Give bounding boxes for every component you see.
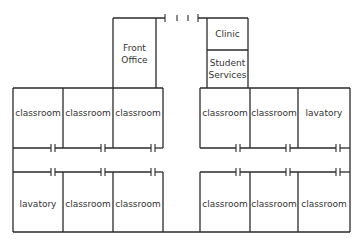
student-services-room: Student Services <box>207 57 248 81</box>
lower-room-3: classroom <box>113 198 163 210</box>
lower-room-2: classroom <box>63 198 113 210</box>
lower-room-6: classroom <box>298 198 350 210</box>
upper-room-4: classroom <box>200 107 250 119</box>
student-services-label-1: Student <box>207 57 248 69</box>
student-services-label-2: Services <box>207 69 248 81</box>
front-office-label-1: Front <box>113 42 156 54</box>
upper-room-1: classroom <box>13 107 63 119</box>
upper-room-2: classroom <box>63 107 113 119</box>
upper-room-3: classroom <box>113 107 163 119</box>
lower-room-1: lavatory <box>13 198 63 210</box>
clinic-label: Clinic <box>207 28 248 40</box>
lower-room-5: classroom <box>250 198 298 210</box>
front-office-label-2: Office <box>113 54 156 66</box>
front-office-room: Front Office <box>113 42 156 66</box>
upper-room-5: classroom <box>250 107 298 119</box>
upper-room-6: lavatory <box>298 107 350 119</box>
lower-room-4: classroom <box>200 198 250 210</box>
clinic-room: Clinic <box>207 28 248 40</box>
